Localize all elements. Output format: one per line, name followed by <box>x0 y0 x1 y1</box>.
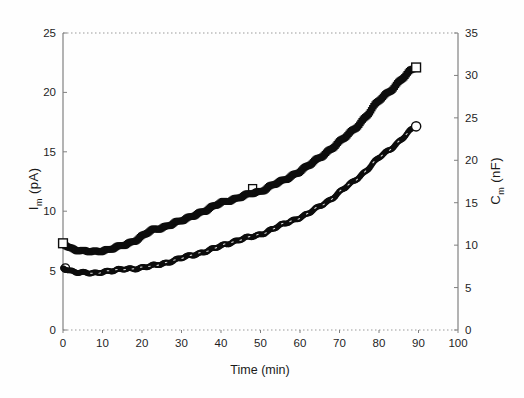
x-tick-label: 80 <box>373 337 386 349</box>
left-tick-label: 10 <box>43 205 56 217</box>
right-axis-title: Cm (nF) <box>488 126 506 236</box>
chart-figure: 0102030405060708090100051015202505101520… <box>0 0 524 398</box>
right-axis-subscript: m <box>496 187 506 195</box>
x-axis-ticks: 0102030405060708090100 <box>60 330 468 349</box>
left-tick-label: 5 <box>50 265 56 277</box>
right-axis-unit: (nF) <box>488 157 503 187</box>
right-tick-label: 10 <box>465 239 478 251</box>
x-tick-label: 20 <box>136 337 149 349</box>
x-tick-label: 40 <box>215 337 228 349</box>
left-tick-label: 20 <box>43 86 56 98</box>
right-tick-label: 30 <box>465 69 478 81</box>
x-axis-title: Time (min) <box>160 363 360 377</box>
open-square-marker <box>59 239 68 248</box>
right-axis-symbol: C <box>488 195 503 205</box>
left-tick-label: 25 <box>43 27 56 39</box>
x-tick-label: 10 <box>96 337 109 349</box>
series-membrane-current-open-markers <box>59 63 421 248</box>
x-tick-label: 90 <box>412 337 425 349</box>
right-tick-label: 25 <box>465 112 478 124</box>
x-tick-label: 50 <box>254 337 267 349</box>
right-tick-label: 5 <box>465 282 471 294</box>
left-axis-title: Im (pA) <box>26 134 44 244</box>
x-tick-label: 100 <box>448 337 467 349</box>
chart-canvas: 0102030405060708090100051015202505101520… <box>0 0 524 398</box>
right-tick-label: 0 <box>465 324 471 336</box>
x-tick-label: 60 <box>294 337 307 349</box>
left-tick-label: 15 <box>43 146 56 158</box>
x-tick-label: 70 <box>333 337 346 349</box>
left-axis-symbol: I <box>26 206 41 210</box>
x-tick-label: 0 <box>60 337 66 349</box>
right-tick-label: 20 <box>465 154 478 166</box>
right-tick-label: 15 <box>465 197 478 209</box>
x-tick-label: 30 <box>175 337 188 349</box>
right-tick-label: 35 <box>465 27 478 39</box>
left-axis-unit: (pA) <box>26 167 41 198</box>
left-tick-label: 0 <box>50 324 56 336</box>
open-square-marker <box>412 63 421 72</box>
open-circle-marker <box>412 122 421 131</box>
left-axis-subscript: m <box>34 198 44 206</box>
series-membrane-capacitance-speckles <box>90 133 408 274</box>
series-membrane-current-band <box>60 65 420 255</box>
series-membrane-capacitance-open-markers <box>412 122 421 131</box>
